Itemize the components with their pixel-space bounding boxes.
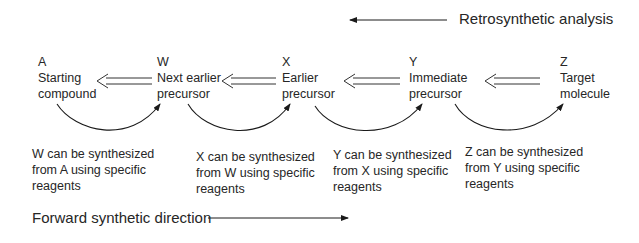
node-line1: Immediate [409, 70, 467, 86]
node-line2: precursor [409, 86, 467, 102]
curved-arrow-y-to-z [455, 104, 563, 130]
caption-line: X can be synthesized [196, 149, 315, 165]
caption-line: from W using specific [196, 165, 315, 181]
caption-line: reagents [196, 181, 315, 197]
caption-line: from X using specific [333, 163, 452, 179]
caption-x-from-w: X can be synthesized from W using specif… [196, 149, 315, 197]
caption-line: from Y using specific [465, 160, 583, 176]
node-line1: Target [560, 70, 610, 86]
node-x-earlier-precursor: X Earlier precursor [282, 54, 335, 102]
caption-w-from-a: W can be synthesized from A using specif… [32, 146, 154, 194]
caption-line: W can be synthesized [32, 146, 154, 162]
retro-double-arrow-z-to-y [485, 74, 540, 88]
node-letter: A [38, 54, 96, 70]
node-w-next-earlier-precursor: W Next earlier precursor [157, 54, 221, 102]
diagram-arrows [0, 0, 639, 243]
caption-line: from A using specific [32, 162, 154, 178]
forward-label: Forward synthetic direction [32, 209, 211, 227]
node-letter: Y [409, 54, 467, 70]
curved-arrow-x-to-y [315, 104, 422, 131]
caption-line: Y can be synthesized [333, 147, 452, 163]
node-line2: molecule [560, 86, 610, 102]
node-line2: precursor [157, 86, 221, 102]
curved-arrow-a-to-w [57, 104, 160, 130]
caption-line: Z can be synthesized [465, 144, 583, 160]
retro-double-arrow-w-to-a [97, 74, 152, 88]
node-letter: X [282, 54, 335, 70]
curved-arrow-w-to-x [188, 104, 290, 130]
node-y-immediate-precursor: Y Immediate precursor [409, 54, 467, 102]
caption-line: reagents [465, 176, 583, 192]
node-line2: precursor [282, 86, 335, 102]
caption-line: reagents [333, 179, 452, 195]
retrosynthetic-label: Retrosynthetic analysis [459, 10, 613, 28]
node-z-target-molecule: Z Target molecule [560, 54, 610, 102]
node-line1: Starting [38, 70, 96, 86]
node-a-starting-compound: A Starting compound [38, 54, 96, 102]
node-line1: Earlier [282, 70, 335, 86]
node-letter: Z [560, 54, 610, 70]
retro-double-arrow-y-to-x [344, 74, 400, 88]
node-line2: compound [38, 86, 96, 102]
caption-y-from-x: Y can be synthesized from X using specif… [333, 147, 452, 195]
caption-z-from-y: Z can be synthesized from Y using specif… [465, 144, 583, 192]
node-line1: Next earlier [157, 70, 221, 86]
caption-line: reagents [32, 178, 154, 194]
retro-double-arrow-x-to-w [222, 74, 276, 88]
node-letter: W [157, 54, 221, 70]
